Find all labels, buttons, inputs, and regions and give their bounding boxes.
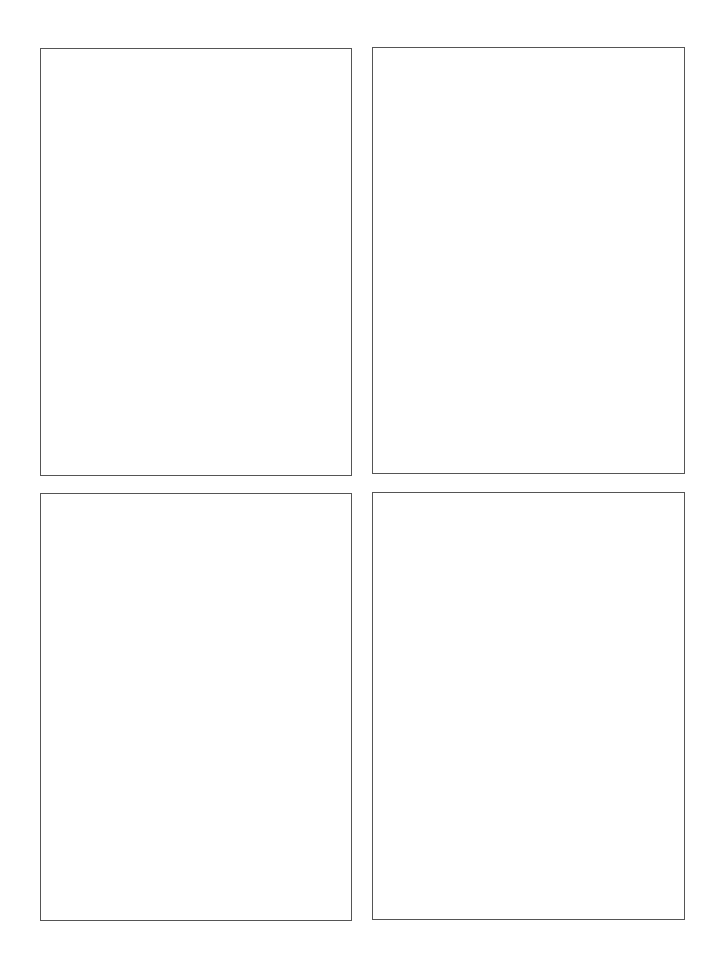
empty-panel-top-right	[372, 47, 685, 474]
panel-content	[373, 493, 684, 919]
panel-content	[373, 48, 684, 473]
empty-panel-top-left	[40, 48, 352, 476]
panel-content	[41, 49, 351, 475]
empty-panel-bottom-left	[40, 493, 352, 921]
empty-panel-bottom-right	[372, 492, 685, 920]
panel-content	[41, 494, 351, 920]
